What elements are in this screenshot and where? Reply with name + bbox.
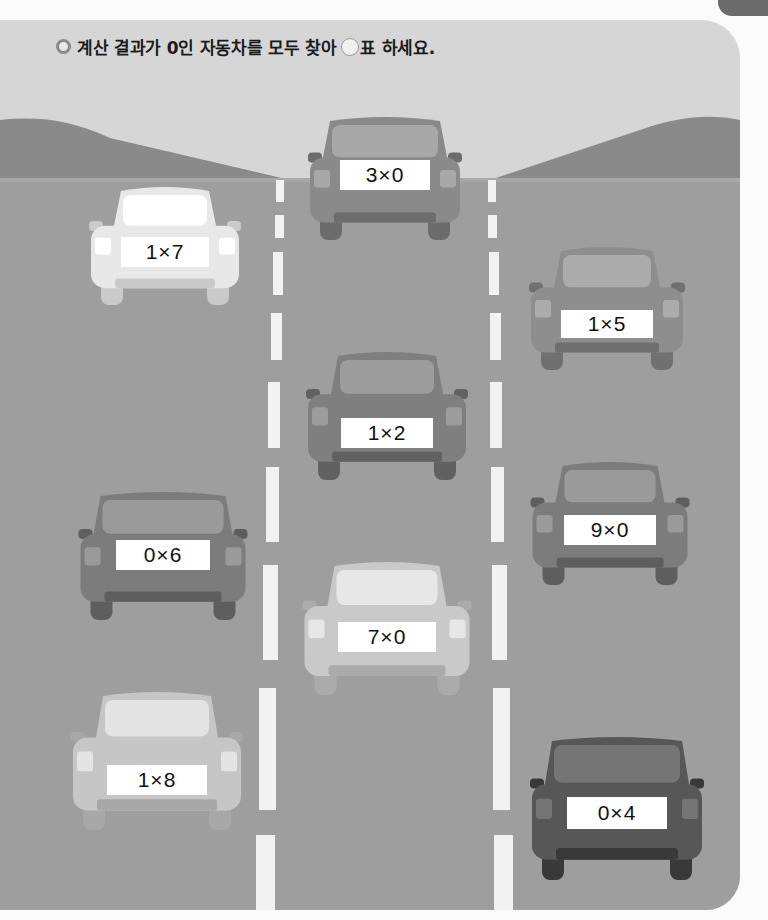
lane-dash bbox=[273, 252, 283, 295]
car-tail-light bbox=[314, 170, 330, 188]
car-bumper bbox=[334, 213, 436, 223]
car-tail-light bbox=[221, 752, 237, 772]
license-plate-1x7: 1×7 bbox=[121, 237, 209, 267]
lane-dash bbox=[488, 215, 497, 238]
lane-dash bbox=[266, 467, 279, 542]
license-plate-1x2: 1×2 bbox=[341, 418, 433, 448]
license-plate-1x5: 1×5 bbox=[561, 310, 653, 338]
car-bumper bbox=[115, 279, 215, 289]
car-rear-window bbox=[554, 745, 680, 783]
lane-dash bbox=[259, 688, 276, 810]
car-rear-window bbox=[563, 255, 651, 288]
lane-dash bbox=[256, 835, 275, 910]
car-tail-light bbox=[440, 170, 456, 188]
license-plate-9x0: 9×0 bbox=[564, 515, 656, 545]
car-tail-light bbox=[226, 547, 242, 565]
lane-dash bbox=[489, 252, 499, 295]
car-tail-light bbox=[85, 547, 101, 565]
car-bumper bbox=[105, 591, 222, 601]
car-bumper bbox=[329, 665, 446, 676]
car-tail-light bbox=[77, 752, 93, 772]
car-tail-light bbox=[312, 407, 328, 425]
car-tail-light bbox=[536, 799, 552, 819]
car-rear-window bbox=[103, 500, 224, 534]
instruction-text: 계산 결과가 0인 자동차를 모두 찾아 표 하세요. bbox=[56, 34, 435, 59]
ring-bullet-icon bbox=[56, 39, 71, 54]
lane-dash bbox=[263, 565, 278, 660]
lane-dash bbox=[493, 688, 510, 810]
license-plate-0x4: 0×4 bbox=[567, 797, 667, 829]
right-hill bbox=[490, 117, 740, 180]
lane-dash bbox=[494, 835, 513, 910]
page-corner-tab bbox=[718, 0, 768, 16]
car-rear-window bbox=[337, 570, 438, 605]
car-tail-light bbox=[663, 300, 679, 318]
lane-dash bbox=[492, 565, 507, 660]
car-bumper bbox=[555, 343, 659, 353]
car-bumper bbox=[556, 848, 678, 860]
lane-dash bbox=[491, 467, 504, 542]
exercise-panel: 계산 결과가 0인 자동차를 모두 찾아 표 하세요. 3×01×71×51×2… bbox=[0, 20, 740, 910]
car-tail-light bbox=[535, 300, 551, 318]
lane-dash bbox=[490, 382, 502, 448]
lane-dash bbox=[490, 313, 501, 360]
car-tail-light bbox=[668, 515, 684, 533]
lane-dash bbox=[268, 382, 280, 448]
license-plate-3x0: 3×0 bbox=[340, 160, 430, 190]
car-rear-window bbox=[565, 470, 656, 503]
car-tail-light bbox=[450, 619, 466, 638]
car-tail-light bbox=[682, 799, 698, 819]
lane-dash bbox=[275, 215, 284, 238]
car-bumper bbox=[332, 451, 442, 461]
car-rear-window bbox=[105, 700, 209, 736]
car-rear-window bbox=[340, 360, 434, 394]
empty-circle-icon bbox=[341, 38, 359, 56]
car-tail-light bbox=[309, 619, 325, 638]
car-tail-light bbox=[219, 238, 235, 255]
car-bumper bbox=[97, 799, 217, 810]
instruction-text-before: 계산 결과가 0인 자동차를 모두 찾아 bbox=[77, 34, 336, 59]
lane-dash bbox=[271, 313, 282, 360]
car-rear-window bbox=[332, 125, 438, 158]
lane-dash bbox=[488, 180, 496, 202]
car-rear-window bbox=[123, 195, 207, 226]
car-tail-light bbox=[95, 238, 111, 255]
car-tail-light bbox=[537, 515, 553, 533]
license-plate-7x0: 7×0 bbox=[338, 622, 436, 652]
license-plate-1x8: 1×8 bbox=[107, 765, 207, 795]
car-tail-light bbox=[446, 407, 462, 425]
license-plate-0x6: 0×6 bbox=[116, 540, 210, 570]
left-hill bbox=[0, 119, 290, 180]
instruction-text-after: 표 하세요. bbox=[360, 34, 435, 59]
car-bumper bbox=[557, 558, 664, 568]
lane-dash bbox=[276, 180, 284, 202]
